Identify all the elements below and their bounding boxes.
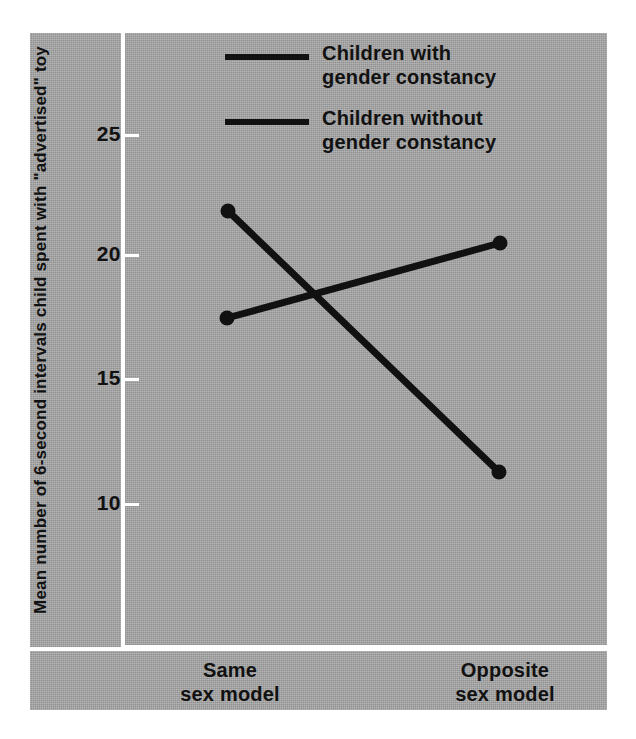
x-tick-label-same-sex-model: Same sex model bbox=[150, 658, 310, 706]
legend-item-with-gender-constancy: Children with gender constancy bbox=[225, 42, 555, 89]
data-point-without-opposite bbox=[493, 236, 508, 251]
data-point-with-opposite bbox=[492, 465, 507, 480]
legend-line-icon bbox=[225, 54, 309, 60]
x-tick-label-opposite-sex-model: Opposite sex model bbox=[420, 658, 590, 706]
chart-legend: Children with gender constancy Children … bbox=[225, 42, 555, 172]
legend-label-line-2: gender constancy bbox=[322, 131, 496, 155]
x-tick-label-line-2: sex model bbox=[420, 682, 590, 706]
x-tick-label-line-1: Opposite bbox=[420, 658, 590, 682]
chart-figure: 25 20 15 10 Mean number of 6-second inte… bbox=[0, 0, 636, 739]
legend-line-icon bbox=[225, 119, 309, 125]
data-point-with-same bbox=[221, 204, 236, 219]
series-with-gender-constancy bbox=[221, 204, 507, 480]
legend-label-line-2: gender constancy bbox=[322, 66, 496, 90]
data-point-without-same bbox=[220, 311, 235, 326]
legend-label-with-gender-constancy: Children with gender constancy bbox=[322, 42, 496, 89]
legend-label-line-1: Children without bbox=[322, 107, 496, 131]
legend-item-without-gender-constancy: Children without gender constancy bbox=[225, 107, 555, 154]
legend-label-without-gender-constancy: Children without gender constancy bbox=[322, 107, 496, 154]
legend-label-line-1: Children with bbox=[322, 42, 496, 66]
x-tick-label-line-2: sex model bbox=[150, 682, 310, 706]
x-tick-label-line-1: Same bbox=[150, 658, 310, 682]
